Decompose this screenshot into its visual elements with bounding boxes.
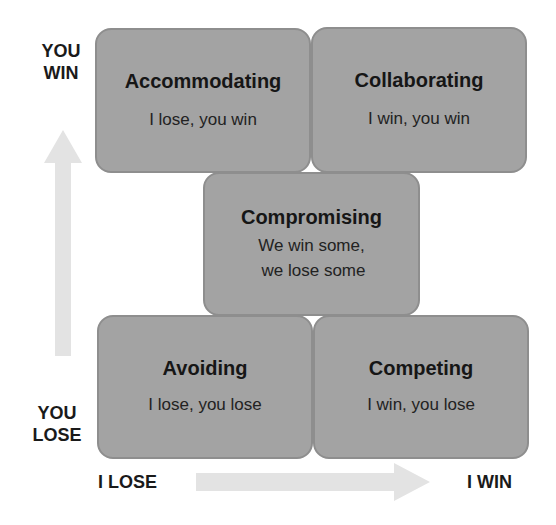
x-axis-right-label: I WIN bbox=[467, 471, 512, 493]
accommodating-subtitle: I lose, you win bbox=[149, 107, 257, 132]
compromising-box: Compromising We win some, we lose some bbox=[203, 172, 420, 316]
collaborating-subtitle: I win, you win bbox=[368, 106, 470, 131]
collaborating-title: Collaborating bbox=[355, 69, 484, 92]
horizontal-arrow-right-icon bbox=[194, 461, 434, 503]
y-axis-bottom-label: YOU LOSE bbox=[22, 402, 92, 446]
vertical-arrow-up-icon bbox=[42, 128, 84, 358]
compromising-title: Compromising bbox=[241, 206, 382, 229]
x-axis-left-label: I LOSE bbox=[98, 471, 157, 493]
competing-subtitle: I win, you lose bbox=[367, 392, 475, 417]
avoiding-title: Avoiding bbox=[163, 357, 248, 380]
y-bottom-line-2: LOSE bbox=[22, 424, 92, 446]
competing-box: Competing I win, you lose bbox=[313, 315, 529, 459]
accommodating-title: Accommodating bbox=[125, 70, 282, 93]
y-axis-top-label: YOU WIN bbox=[30, 40, 92, 84]
y-top-line-2: WIN bbox=[30, 62, 92, 84]
avoiding-subtitle: I lose, you lose bbox=[148, 392, 261, 417]
accommodating-box: Accommodating I lose, you win bbox=[95, 28, 311, 173]
competing-title: Competing bbox=[369, 357, 473, 380]
compromising-subtitle-line-2: we lose some bbox=[258, 258, 366, 283]
avoiding-box: Avoiding I lose, you lose bbox=[97, 315, 313, 459]
collaborating-box: Collaborating I win, you win bbox=[311, 27, 527, 173]
y-bottom-line-1: YOU bbox=[22, 402, 92, 424]
y-top-line-1: YOU bbox=[30, 40, 92, 62]
compromising-subtitle-line-1: We win some, bbox=[258, 233, 364, 258]
